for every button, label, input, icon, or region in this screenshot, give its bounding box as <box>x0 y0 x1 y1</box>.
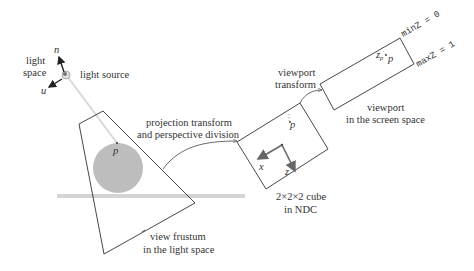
ndc-axis-z-label: z <box>284 166 289 177</box>
light-space-label-1: light <box>26 55 45 66</box>
light-space-label-2: space <box>23 67 47 78</box>
light-axis-n <box>59 57 64 72</box>
projection-label-2: and perspective division <box>137 129 240 140</box>
ndc-caption-2: in NDC <box>284 204 317 215</box>
light-source-label: light source <box>80 69 130 80</box>
light-ray <box>67 76 117 143</box>
frustum-point-label: p <box>112 145 118 156</box>
projection-label-1: projection transform <box>146 117 232 128</box>
min-z-label: minZ = 0 <box>400 9 442 39</box>
frustum-caption-1: view frustum <box>150 231 206 242</box>
frustum-caption-2: in the light space <box>143 244 215 255</box>
ndc-axis-x-label: x <box>258 161 264 172</box>
light-source-icon <box>62 71 70 79</box>
viewport-caption-1: viewport <box>367 102 404 113</box>
viewport-transform-label-1: viewport <box>278 67 315 78</box>
ndc-axis-x <box>258 145 282 159</box>
viewport-depth-label: zp <box>375 49 384 61</box>
shadow-mapping-diagram: p n u light space light source view frus… <box>0 0 474 271</box>
light-axis-u-label: u <box>41 85 46 96</box>
max-z-label: maxZ = 1 <box>415 39 457 69</box>
viewport-caption-2: in the screen space <box>346 114 425 125</box>
ndc-point-label: p <box>289 119 295 130</box>
viewport-transform-label-2: transform <box>275 79 316 90</box>
viewport-point-p <box>385 54 387 56</box>
light-axis-n-label: n <box>54 44 59 55</box>
projection-arrow <box>163 141 237 169</box>
point-p-marker <box>116 142 118 144</box>
viewport-point-label: p <box>387 53 393 64</box>
light-axis-u <box>49 79 62 87</box>
screen-viewport <box>320 38 414 110</box>
ndc-caption-1: 2×2×2 cube <box>276 191 326 202</box>
viewport-transform-arrow <box>300 90 322 103</box>
